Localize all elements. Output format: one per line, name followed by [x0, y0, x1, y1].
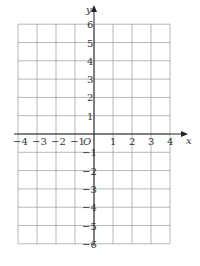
x-tick-label: −1 [70, 136, 85, 147]
x-tick-label: 4 [167, 136, 173, 147]
y-tick-label: −3 [82, 184, 97, 195]
y-tick-label: 5 [87, 38, 93, 49]
y-tick-label: 3 [87, 74, 93, 85]
y-tick-label: −6 [82, 239, 97, 250]
y-axis-label: y [85, 4, 92, 15]
y-tick-label: −4 [82, 202, 97, 213]
x-tick-label: 1 [110, 136, 116, 147]
x-tick-label: −2 [51, 136, 66, 147]
x-tick-label: 2 [129, 136, 135, 147]
y-tick-label: −2 [82, 166, 97, 177]
y-tick-label: 6 [87, 19, 93, 30]
x-tick-label: −3 [32, 136, 47, 147]
y-tick-label: 2 [87, 92, 93, 103]
coordinate-grid: xyO−4−3−2−11234654321−1−2−3−4−5−6 [0, 0, 200, 266]
y-tick-label: 4 [87, 56, 93, 67]
y-tick-label: 1 [87, 111, 93, 122]
x-axis-label: x [186, 135, 192, 146]
y-axis-arrow-icon [91, 5, 97, 12]
y-tick-label: −1 [82, 147, 97, 158]
y-tick-label: −5 [82, 221, 97, 232]
x-tick-label: −4 [13, 136, 28, 147]
x-tick-label: 3 [148, 136, 154, 147]
